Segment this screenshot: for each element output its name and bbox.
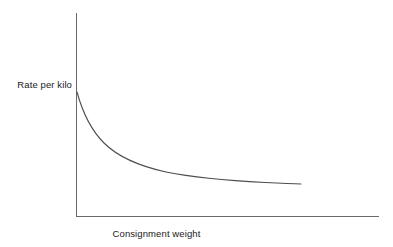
- rate-curve: [77, 92, 301, 184]
- y-axis-label: Rate per kilo: [17, 79, 72, 91]
- chart-figure: Rate per kilo Consignment weight: [0, 0, 393, 247]
- x-axis-label: Consignment weight: [0, 228, 393, 240]
- chart-plot-area: [0, 0, 393, 247]
